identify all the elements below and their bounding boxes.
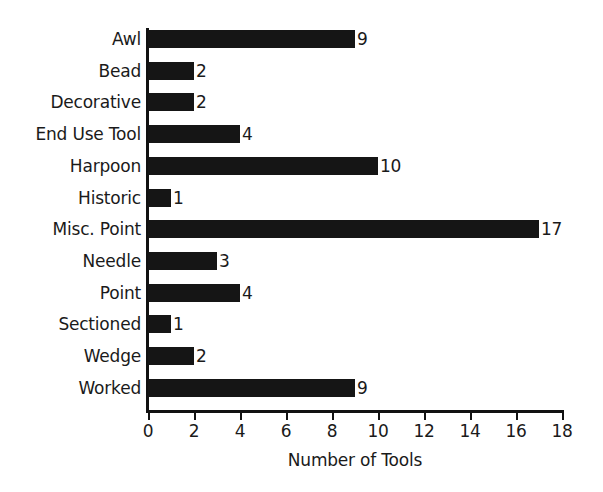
bar	[148, 220, 539, 238]
bar-row: End Use Tool4	[0, 124, 603, 144]
x-tick-label: 6	[266, 421, 306, 441]
category-label: Point	[0, 283, 141, 303]
bar	[148, 252, 217, 270]
bar	[148, 379, 355, 397]
bar-value-label: 9	[357, 29, 368, 49]
x-tick-label: 0	[128, 421, 168, 441]
x-tick	[148, 413, 150, 420]
category-label: Bead	[0, 61, 141, 81]
category-label: Awl	[0, 29, 141, 49]
bar-value-label: 1	[173, 188, 184, 208]
bar	[148, 347, 194, 365]
category-label: Worked	[0, 378, 141, 398]
bar-value-label: 2	[196, 61, 207, 81]
x-tick	[286, 413, 288, 420]
bar	[148, 93, 194, 111]
bar	[148, 284, 240, 302]
bar-row: Historic1	[0, 188, 603, 208]
bar-value-label: 4	[242, 283, 253, 303]
bar-value-label: 2	[196, 92, 207, 112]
x-tick	[424, 413, 426, 420]
x-axis-title: Number of Tools	[148, 450, 562, 471]
category-label: End Use Tool	[0, 124, 141, 144]
category-label: Harpoon	[0, 156, 141, 176]
category-label: Wedge	[0, 346, 141, 366]
bar	[148, 62, 194, 80]
category-label: Sectioned	[0, 314, 141, 334]
bar-value-label: 9	[357, 378, 368, 398]
x-tick	[562, 413, 564, 420]
bar	[148, 315, 171, 333]
bar	[148, 125, 240, 143]
category-label: Misc. Point	[0, 219, 141, 239]
bar-chart: Awl9Bead2Decorative2End Use Tool4Harpoon…	[0, 0, 603, 492]
x-tick-label: 18	[542, 421, 582, 441]
bar	[148, 30, 355, 48]
x-tick	[240, 413, 242, 420]
x-tick-label: 14	[450, 421, 490, 441]
bar-value-label: 2	[196, 346, 207, 366]
bar-row: Worked9	[0, 378, 603, 398]
x-tick-label: 10	[358, 421, 398, 441]
x-tick-label: 16	[496, 421, 536, 441]
bar-value-label: 17	[541, 219, 562, 239]
bar-row: Misc. Point17	[0, 219, 603, 239]
bar-row: Harpoon10	[0, 156, 603, 176]
bar	[148, 157, 378, 175]
x-tick	[378, 413, 380, 420]
bar-value-label: 4	[242, 124, 253, 144]
bar-value-label: 3	[219, 251, 230, 271]
bar-row: Point4	[0, 283, 603, 303]
x-tick	[516, 413, 518, 420]
bar-row: Sectioned1	[0, 314, 603, 334]
bar	[148, 189, 171, 207]
category-label: Needle	[0, 251, 141, 271]
bar-value-label: 1	[173, 314, 184, 334]
category-label: Decorative	[0, 92, 141, 112]
bar-row: Needle3	[0, 251, 603, 271]
plot-area: Awl9Bead2Decorative2End Use Tool4Harpoon…	[0, 0, 603, 492]
x-tick-label: 4	[220, 421, 260, 441]
x-tick	[194, 413, 196, 420]
bar-row: Bead2	[0, 61, 603, 81]
bar-row: Awl9	[0, 29, 603, 49]
x-tick	[332, 413, 334, 420]
x-axis-line	[146, 410, 564, 413]
x-tick-label: 8	[312, 421, 352, 441]
x-tick-label: 2	[174, 421, 214, 441]
bar-row: Decorative2	[0, 92, 603, 112]
category-label: Historic	[0, 188, 141, 208]
x-tick	[470, 413, 472, 420]
bar-row: Wedge2	[0, 346, 603, 366]
x-tick-label: 12	[404, 421, 444, 441]
bar-value-label: 10	[380, 156, 401, 176]
